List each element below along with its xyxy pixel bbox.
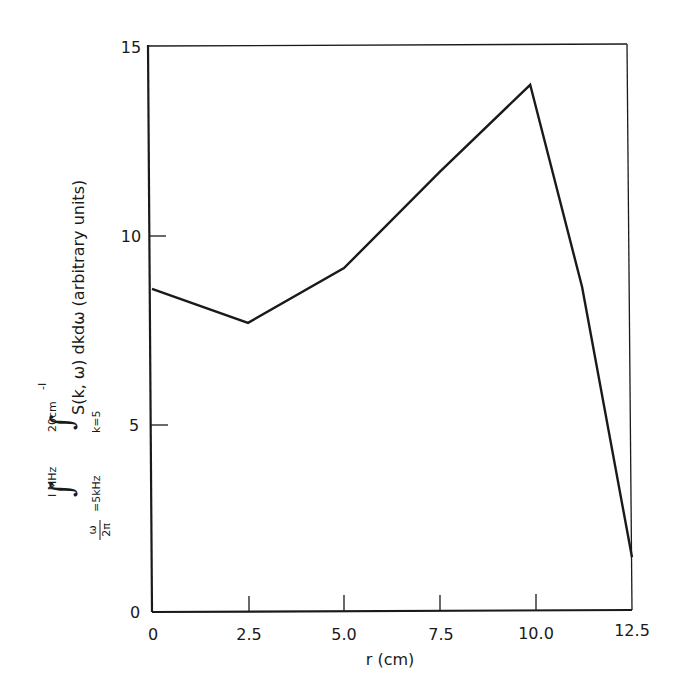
data-series-line [152, 85, 632, 558]
inner-integral-lower: k=5 [90, 410, 103, 433]
right-axis [627, 44, 632, 610]
x-tick-7.5: 7.5 [428, 625, 453, 644]
outer-frac-den: 2π [100, 523, 113, 537]
top-axis [148, 44, 627, 46]
x-tick-0: 0 [148, 625, 158, 644]
x-axis-label: r (cm) [366, 650, 415, 669]
x-tick-10.0: 10.0 [518, 624, 554, 643]
x-ticks [249, 594, 536, 612]
bottom-axis [152, 610, 632, 612]
outer-frac-num: ω [86, 525, 99, 534]
y-tick-5: 5 [129, 416, 139, 435]
plot-frame [148, 44, 632, 612]
outer-integral-upper: I MHz [46, 466, 59, 497]
line-chart: 15 10 5 0 0 2.5 5.0 7.5 10.0 12.5 r (cm)… [0, 0, 680, 695]
y-integrand-label: S(k, ω) dkdω (arbitrary units) [69, 180, 88, 415]
left-axis [148, 45, 152, 612]
x-tick-12.5: 12.5 [614, 621, 650, 640]
y-tick-labels: 15 10 5 0 [121, 38, 141, 622]
x-tick-5.0: 5.0 [331, 625, 356, 644]
y-tick-10: 10 [121, 227, 141, 246]
y-axis-label: S(k, ω) dkdω (arbitrary units) ∫ 20cm -I… [36, 180, 113, 540]
outer-integral-lower: =5kHz [90, 475, 103, 512]
inner-integral-upper-sup: -I [36, 383, 49, 390]
inner-integral-upper: 20cm [46, 401, 59, 432]
x-tick-labels: 0 2.5 5.0 7.5 10.0 12.5 [148, 621, 650, 644]
y-ticks [150, 236, 168, 425]
x-tick-2.5: 2.5 [236, 625, 261, 644]
y-tick-0: 0 [130, 603, 140, 622]
y-tick-15: 15 [121, 38, 141, 57]
